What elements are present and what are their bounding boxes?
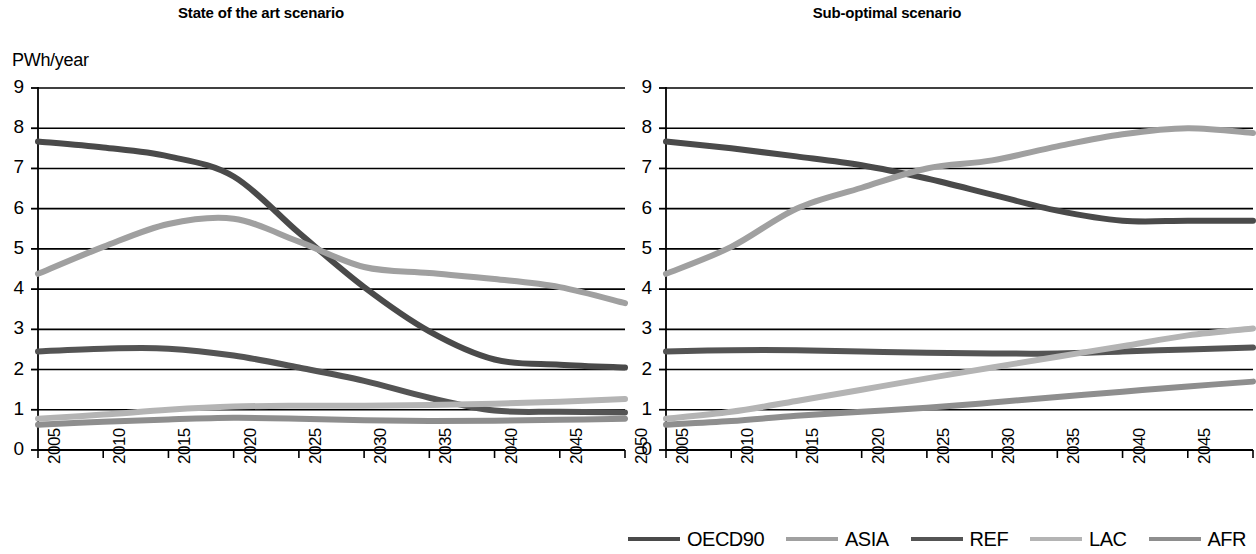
- legend-item-asia: ASIA: [786, 528, 889, 551]
- y-tick-label: 5: [2, 237, 24, 259]
- x-tick-label: 2025: [306, 428, 326, 464]
- y-tick-label: 3: [630, 317, 652, 339]
- plot-area-right: [628, 0, 1256, 554]
- series-line-ref: [666, 347, 1253, 353]
- x-tick-label: 2030: [371, 428, 391, 464]
- x-tick-label: 2020: [869, 428, 889, 464]
- y-tick-label: 6: [630, 197, 652, 219]
- legend-swatch-oecd90: [628, 537, 680, 541]
- legend-label: LAC: [1089, 528, 1126, 551]
- x-tick-label: 2015: [803, 428, 823, 464]
- x-tick-label: 2010: [110, 428, 130, 464]
- x-tick-label: 2005: [673, 428, 693, 464]
- x-tick-label: 2035: [436, 428, 456, 464]
- series-line-afr: [666, 382, 1253, 425]
- y-tick-label: 8: [2, 116, 24, 138]
- series-line-oecd90: [666, 142, 1253, 222]
- y-tick-label: 0: [630, 438, 652, 460]
- legend-label: AFR: [1208, 528, 1247, 551]
- x-tick-label: 2020: [241, 428, 261, 464]
- legend-item-lac: LAC: [1030, 528, 1126, 551]
- y-tick-label: 3: [2, 317, 24, 339]
- y-tick-label: 4: [630, 277, 652, 299]
- x-tick-label: 2015: [175, 428, 195, 464]
- legend-item-ref: REF: [911, 528, 1009, 551]
- legend-item-oecd90: OECD90: [628, 528, 764, 551]
- legend-label: OECD90: [687, 528, 764, 551]
- legend-label: ASIA: [845, 528, 889, 551]
- y-tick-label: 1: [2, 398, 24, 420]
- x-tick-label: 2040: [1130, 428, 1150, 464]
- x-tick-label: 2025: [934, 428, 954, 464]
- legend-swatch-ref: [911, 537, 963, 541]
- series-line-afr: [38, 418, 625, 425]
- legend-swatch-lac: [1030, 537, 1082, 541]
- y-tick-label: 5: [630, 237, 652, 259]
- y-tick-label: 6: [2, 197, 24, 219]
- x-tick-label: 2045: [1195, 428, 1215, 464]
- x-tick-label: 2005: [45, 428, 65, 464]
- legend-item-afr: AFR: [1149, 528, 1247, 551]
- x-tick-label: 2035: [1064, 428, 1084, 464]
- y-tick-label: 1: [630, 398, 652, 420]
- legend-swatch-asia: [786, 537, 838, 541]
- y-tick-label: 2: [630, 358, 652, 380]
- legend-swatch-afr: [1149, 537, 1201, 541]
- chart-legend: OECD90ASIAREFLACAFR: [628, 524, 1256, 554]
- y-tick-label: 2: [2, 358, 24, 380]
- y-tick-label: 9: [630, 76, 652, 98]
- x-tick-label: 2045: [567, 428, 587, 464]
- x-tick-label: 2010: [738, 428, 758, 464]
- y-tick-label: 0: [2, 438, 24, 460]
- legend-label: REF: [970, 528, 1009, 551]
- plot-area-left: [0, 0, 628, 554]
- panel-sub-optimal: Sub-optimal scenario PWh/year 0123456789…: [628, 0, 1256, 554]
- y-tick-label: 7: [2, 156, 24, 178]
- y-tick-label: 8: [630, 116, 652, 138]
- y-tick-label: 7: [630, 156, 652, 178]
- y-tick-label: 9: [2, 76, 24, 98]
- y-tick-label: 4: [2, 277, 24, 299]
- series-line-lac: [38, 399, 625, 419]
- x-tick-label: 2040: [502, 428, 522, 464]
- figure-two-scenario-line-charts: State of the art scenario PWh/year 01234…: [0, 0, 1256, 554]
- panel-state-of-the-art: State of the art scenario PWh/year 01234…: [0, 0, 628, 554]
- x-tick-label: 2030: [999, 428, 1019, 464]
